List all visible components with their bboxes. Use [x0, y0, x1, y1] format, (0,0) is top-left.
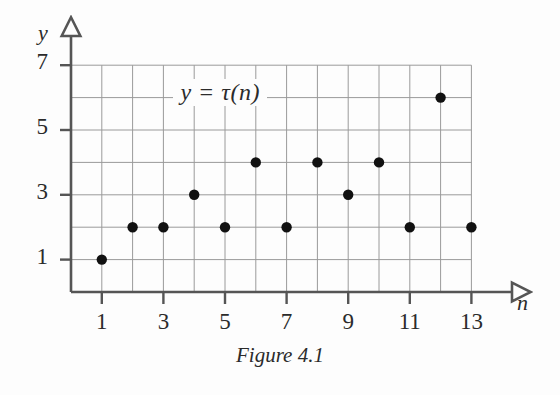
- plot-canvas: [0, 0, 560, 395]
- data-point: [251, 157, 261, 167]
- x-axis-label: n: [517, 290, 528, 316]
- y-tick-label: 3: [5, 179, 48, 205]
- curve-equation-label: y = τ(n): [173, 79, 266, 106]
- figure-container: 135791113 1357 y n y = τ(n) Figure 4.1: [0, 0, 560, 395]
- data-point: [281, 222, 291, 232]
- figure-caption: Figure 4.1: [0, 343, 560, 368]
- grid-layer: [71, 65, 471, 292]
- data-point: [435, 92, 445, 102]
- y-tick-label: 1: [5, 244, 48, 270]
- data-point: [220, 222, 230, 232]
- x-tick-label: 1: [72, 309, 132, 335]
- data-point: [312, 157, 322, 167]
- x-tick-label: 9: [318, 309, 378, 335]
- x-tick-label: 13: [441, 309, 501, 335]
- x-tick-label: 3: [133, 309, 193, 335]
- data-point: [466, 222, 476, 232]
- data-point: [97, 254, 107, 264]
- data-point: [189, 190, 199, 200]
- x-tick-label: 11: [380, 309, 440, 335]
- x-tick-label: 7: [257, 309, 317, 335]
- x-tick-label: 5: [195, 309, 255, 335]
- data-point: [127, 222, 137, 232]
- axis-layer: [71, 36, 512, 292]
- y-axis-label: y: [38, 20, 48, 46]
- data-point: [374, 157, 384, 167]
- data-point: [343, 190, 353, 200]
- y-tick-label: 5: [5, 114, 48, 140]
- y-tick-label: 7: [5, 49, 48, 75]
- data-point: [405, 222, 415, 232]
- data-point: [158, 222, 168, 232]
